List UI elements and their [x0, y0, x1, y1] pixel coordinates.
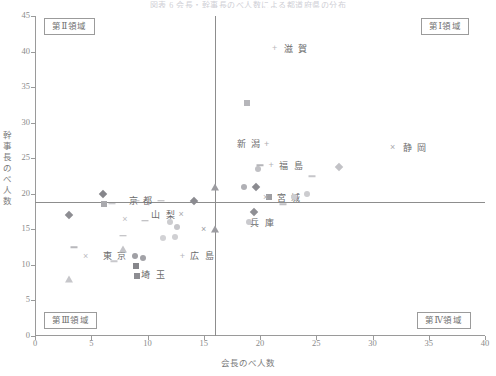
data-point-label: 滋 賀	[284, 44, 309, 54]
data-point-marker	[140, 255, 146, 261]
quadrant-label-4: 第Ⅳ領域	[417, 312, 471, 329]
data-point-marker: ×	[201, 225, 206, 234]
x-tick-label: 5	[76, 339, 106, 348]
data-point-marker	[133, 200, 140, 202]
data-point-marker	[211, 226, 219, 233]
y-tick-mark	[31, 194, 35, 195]
x-tick-label: 20	[245, 339, 275, 348]
scatter-chart: 図表 6 会長・幹事長のべ人数による都道府県の分布 05101520253035…	[0, 0, 496, 376]
data-point-label: 福 島	[279, 161, 304, 171]
data-point-marker	[172, 234, 178, 240]
plot-area	[35, 16, 485, 336]
data-point-marker	[308, 175, 315, 177]
chart-title: 図表 6 会長・幹事長のべ人数による都道府県の分布	[0, 0, 496, 8]
data-point-label: 山 梨	[151, 210, 176, 220]
data-point-marker-labeled: ×	[390, 142, 395, 151]
data-point-marker-labeled: +	[180, 252, 185, 261]
data-point-marker	[71, 246, 78, 248]
quadrant-label-2: 第Ⅱ領域	[44, 18, 95, 35]
x-tick-label: 30	[358, 339, 388, 348]
quadrant-label-1: 第Ⅰ領域	[421, 18, 469, 35]
data-point-marker	[244, 100, 250, 106]
x-tick-mark	[316, 336, 317, 340]
data-point-marker	[110, 261, 117, 263]
y-tick-mark	[31, 123, 35, 124]
quadrant-label-3: 第Ⅲ領域	[44, 312, 97, 329]
data-point-marker-labeled: ×	[179, 210, 184, 219]
data-point-marker	[241, 184, 247, 190]
y-tick-mark	[31, 87, 35, 88]
data-point-marker	[101, 201, 107, 207]
y-tick-mark	[31, 300, 35, 301]
y-tick-label: 10	[0, 260, 30, 269]
data-point-marker	[304, 191, 310, 197]
data-point-marker-labeled	[158, 200, 165, 202]
x-tick-mark	[35, 336, 36, 340]
y-axis-label: 幹事長のべ人数	[2, 130, 13, 207]
data-point-marker-labeled: +	[264, 140, 269, 149]
vertical-reference-line	[215, 16, 216, 336]
data-point-marker-labeled	[132, 253, 138, 259]
y-tick-label: 5	[0, 295, 30, 304]
x-tick-label: 35	[414, 339, 444, 348]
data-point-marker	[134, 273, 140, 279]
data-point-marker	[174, 224, 180, 230]
y-tick-mark	[31, 52, 35, 53]
data-point-marker	[255, 166, 261, 172]
data-point-label: 新 潟	[237, 139, 262, 149]
data-point-marker-labeled: +	[269, 161, 274, 170]
data-point-marker	[160, 235, 166, 241]
data-point-marker	[211, 183, 219, 190]
data-point-marker	[167, 219, 173, 225]
y-tick-label: 45	[0, 11, 30, 20]
data-point-marker: ×	[83, 252, 88, 261]
data-point-marker	[257, 165, 264, 167]
data-point-label: 埼 玉	[141, 270, 166, 280]
data-point-marker	[119, 246, 127, 253]
y-tick-label: 30	[0, 118, 30, 127]
y-tick-label: 35	[0, 82, 30, 91]
x-tick-mark	[91, 336, 92, 340]
x-tick-label: 15	[189, 339, 219, 348]
x-tick-mark	[260, 336, 261, 340]
x-tick-label: 10	[133, 339, 163, 348]
x-axis-label: 会長のべ人数	[0, 356, 496, 368]
y-tick-mark	[31, 265, 35, 266]
y-tick-label: 40	[0, 47, 30, 56]
data-point-marker	[108, 203, 115, 205]
x-tick-label: 40	[470, 339, 496, 348]
data-point-marker	[65, 276, 73, 283]
data-point-label: 宮 城	[277, 193, 302, 203]
data-point-marker	[246, 219, 252, 225]
data-point-marker	[279, 204, 286, 206]
data-point-marker	[119, 235, 126, 237]
data-point-marker	[142, 220, 149, 222]
y-tick-mark	[31, 229, 35, 230]
data-point-marker: ×	[122, 215, 127, 224]
x-tick-mark	[204, 336, 205, 340]
y-tick-label: 15	[0, 224, 30, 233]
y-tick-mark	[31, 158, 35, 159]
x-tick-label: 25	[301, 339, 331, 348]
x-tick-mark	[485, 336, 486, 340]
x-tick-mark	[148, 336, 149, 340]
data-point-marker: ×	[263, 193, 268, 202]
data-point-label: 広 島	[190, 251, 215, 261]
data-point-label: 静 岡	[403, 143, 428, 153]
x-tick-label: 0	[20, 339, 50, 348]
data-point-marker-labeled: +	[272, 44, 277, 53]
data-point-marker	[291, 194, 297, 200]
data-point-marker-labeled	[133, 263, 139, 269]
data-point-label: 兵 庫	[250, 218, 275, 228]
x-tick-mark	[429, 336, 430, 340]
y-tick-mark	[31, 16, 35, 17]
x-tick-mark	[373, 336, 374, 340]
